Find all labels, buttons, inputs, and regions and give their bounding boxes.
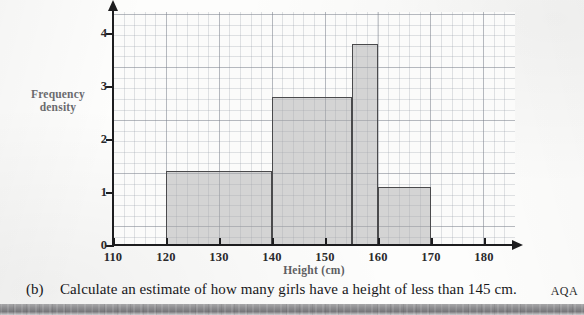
x-tick: [431, 238, 433, 245]
scanned-exam-page: 110120130140150160170180 01234 Frequency…: [0, 0, 584, 315]
y-tick: [106, 139, 113, 141]
y-tick: [106, 86, 113, 88]
y-tick: [106, 245, 113, 247]
y-tick-label: 4: [95, 26, 107, 41]
x-tick-label: 130: [209, 250, 228, 265]
question-row: (b) Calculate an estimate of how many gi…: [0, 281, 584, 303]
x-tick: [325, 238, 327, 245]
histogram-bar: [378, 187, 431, 245]
x-tick-label: 120: [156, 250, 175, 265]
histogram-bar: [352, 44, 379, 245]
x-tick: [484, 238, 486, 245]
question-label: (b): [26, 281, 44, 298]
y-axis-arrow-icon: [108, 0, 118, 11]
y-axis-line: [112, 8, 114, 247]
exam-board-credit: AQA: [551, 284, 578, 299]
x-tick-label: 180: [474, 250, 493, 265]
x-tick-label: 160: [368, 250, 387, 265]
x-tick: [272, 238, 274, 245]
x-tick: [113, 238, 115, 245]
x-tick: [219, 238, 221, 245]
y-axis-title: Frequency density: [14, 88, 102, 114]
x-tick: [166, 238, 168, 245]
y-tick-label: 1: [95, 185, 107, 200]
x-tick-label: 170: [421, 250, 440, 265]
x-tick: [378, 238, 380, 245]
histogram-bar: [272, 97, 352, 245]
y-tick-label: 2: [95, 132, 107, 147]
scan-edge-bar: [0, 304, 584, 315]
y-axis-title-line1: Frequency: [14, 88, 102, 101]
x-axis-title: Height (cm): [0, 264, 584, 276]
y-tick-label: 0: [95, 238, 107, 253]
scan-edge-texture: [0, 304, 584, 315]
y-tick: [106, 192, 113, 194]
x-tick-label: 140: [262, 250, 281, 265]
histogram-figure: 110120130140150160170180 01234 Frequency…: [0, 0, 584, 258]
question-text: Calculate an estimate of how many girls …: [60, 281, 517, 298]
x-axis-arrow-icon: [512, 240, 523, 250]
y-axis-title-line2: density: [14, 101, 102, 114]
y-tick: [106, 33, 113, 35]
x-tick-label: 150: [315, 250, 334, 265]
x-axis-line: [112, 244, 514, 246]
histogram-bar: [166, 171, 272, 245]
plot-grid-area: [113, 12, 515, 245]
